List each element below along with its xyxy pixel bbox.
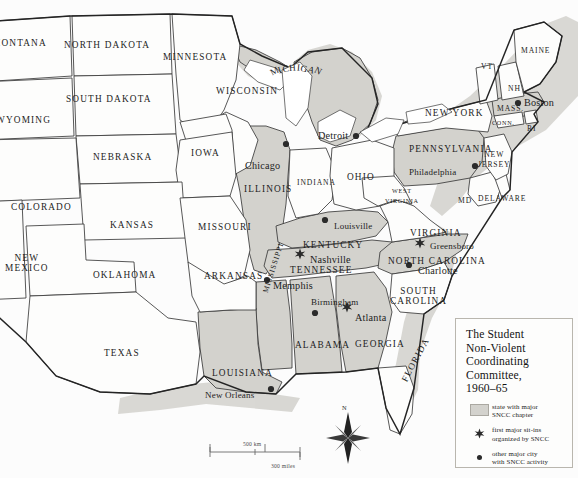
state-label-oklahoma: OKLAHOMA: [93, 270, 156, 280]
state-label-wisconsin: WISCONSIN: [216, 86, 278, 96]
city-label-atlanta: Atlanta: [355, 312, 386, 323]
legend-text-line: state with major: [492, 403, 538, 411]
state-label-new-jersey: NEWJERSEY: [478, 150, 510, 170]
legend-key: [466, 450, 492, 464]
state-label-mass: MASS.: [497, 104, 524, 113]
city-label-chicago: Chicago: [245, 160, 280, 171]
legend-item-text: state with major SNCC chapter: [492, 403, 538, 419]
state-label-conn: CONN.: [492, 119, 515, 126]
legend-title: The Student Non-Violent Coordinating Com…: [466, 328, 563, 396]
state-label-colorado: COLORADO: [11, 202, 72, 212]
legend-text-line: first major sit-ins: [492, 426, 549, 434]
state-label-ohio: OHIO: [347, 172, 375, 182]
state-label-montana: MONTANA: [0, 38, 47, 48]
state-label-maine: MAINE: [521, 46, 550, 55]
legend-item-text: other major city with SNCC activity: [492, 450, 548, 466]
legend-title-line: Committee,: [466, 369, 563, 383]
city-label-nashville: Nashville: [310, 254, 351, 265]
scale-km-label: 500 km: [243, 441, 261, 447]
state-label-north-dakota: NORTH DAKOTA: [64, 40, 150, 50]
shaded-square-icon: [470, 404, 489, 416]
city-label-louisville: Louisville: [334, 221, 373, 231]
legend-item-other-city: other major city with SNCC activity: [466, 450, 563, 466]
state-label-indiana: INDIANA: [297, 178, 336, 187]
state-label-iowa: IOWA: [191, 148, 220, 158]
city-label-boston: Boston: [524, 97, 554, 108]
state-label-georgia: GEORGIA: [355, 339, 405, 349]
legend-item-shaded-state: state with major SNCC chapter: [466, 403, 563, 419]
city-label-memphis: Memphis: [273, 280, 313, 291]
state-label-minnesota: MINNESOTA: [163, 52, 227, 62]
city-label-philadelphia: Philadelphia: [409, 167, 456, 177]
legend-title-line: The Student: [466, 328, 563, 342]
legend-key: [466, 426, 492, 440]
legend-item-sit-in: first major sit-ins organized by SNCC: [466, 426, 563, 442]
legend-text-line: with SNCC activity: [492, 458, 548, 466]
state-label-kansas: KANSAS: [110, 220, 154, 230]
legend-text-line: SNCC chapter: [492, 411, 538, 419]
state-label-kentucky: KENTUCKY: [303, 240, 363, 250]
city-label-new-orleans: New Orleans: [205, 390, 254, 400]
state-label-ri: RI: [527, 124, 536, 133]
state-label-new-mexico: NEWMEXICO: [5, 253, 49, 273]
state-label-delaware: DELAWARE: [478, 194, 526, 203]
scale-bar: 500 km 300 miles: [205, 437, 315, 473]
legend-item-text: first major sit-ins organized by SNCC: [492, 426, 549, 442]
state-label-texas: TEXAS: [104, 348, 140, 358]
city-dot-marker-chicago: [283, 141, 289, 147]
state-label-missouri: MISSOURI: [198, 222, 252, 232]
state-label-michigan: MICHIGAN: [268, 62, 325, 72]
city-dot-marker-new-orleans: [268, 386, 274, 392]
state-label-south-carolina: SOUTHCAROLINA: [390, 286, 447, 306]
state-label-arkansas: ARKANSAS: [204, 271, 263, 281]
city-label-birmingham: Birmingham: [311, 297, 359, 307]
state-label-illinois: ILLINOIS: [244, 184, 292, 194]
state-label-louisiana: LOUISIANA: [212, 368, 273, 378]
compass-north-label: N: [342, 404, 347, 411]
state-label-tennessee: TENNESSEE: [290, 265, 353, 275]
city-label-charlotte: Charlotte: [418, 265, 458, 276]
state-label-nh: NH: [508, 84, 521, 93]
compass-label-group: N: [328, 404, 368, 466]
state-label-west-virginia: WESTVIRGINIA: [385, 186, 419, 206]
dot-icon: [473, 451, 486, 464]
legend-text-line: other major city: [492, 450, 548, 458]
city-dot-marker-birmingham: [312, 310, 318, 316]
legend-key: [466, 403, 492, 416]
state-label-wyoming: WYOMING: [0, 115, 51, 125]
legend-title-line: 1960–65: [466, 382, 563, 396]
city-label-greensboro: Greensboro: [430, 241, 474, 251]
state-label-vt: VT: [481, 62, 493, 71]
sncc-map: MONTANANORTH DAKOTAMINNESOTASOUTH DAKOTA…: [0, 0, 578, 478]
city-dot-marker-louisville: [322, 217, 328, 223]
legend-title-line: Non-Violent: [466, 342, 563, 356]
city-dot-marker-detroit: [353, 133, 359, 139]
state-label-alabama: ALABAMA: [295, 340, 350, 350]
star-icon: [473, 427, 486, 440]
map-legend: The Student Non-Violent Coordinating Com…: [455, 318, 573, 468]
state-label-new-york: NEW YORK: [425, 108, 484, 118]
legend-text-line: organized by SNCC: [492, 435, 549, 443]
state-label-nebraska: NEBRASKA: [93, 152, 152, 162]
scale-miles-label: 300 miles: [271, 463, 295, 469]
legend-title-line: Coordinating: [466, 355, 563, 369]
state-label-south-dakota: SOUTH DAKOTA: [66, 94, 152, 104]
city-label-detroit: Detroit: [318, 130, 348, 141]
state-label-virginia: VIRGINIA: [410, 228, 462, 238]
state-label-md: MD: [458, 196, 472, 205]
